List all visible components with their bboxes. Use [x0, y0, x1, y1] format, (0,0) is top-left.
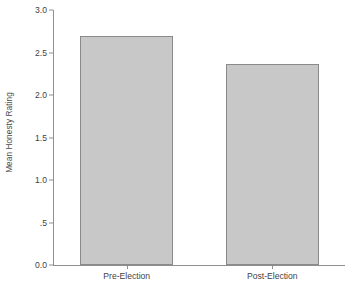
x-tick-label: Pre-Election [103, 271, 150, 281]
y-tick-label: 1.5 [18, 133, 47, 143]
y-tick-label: 0.0 [18, 260, 47, 270]
x-tick-mark [272, 266, 273, 269]
y-tick-label: 2.0 [18, 90, 47, 100]
x-tick-label: Post-Election [247, 271, 298, 281]
bar [80, 36, 173, 266]
y-axis-title-text: Mean Honesty Rating [5, 92, 14, 173]
y-tick-label: 3.0 [18, 5, 47, 15]
plot-area [54, 10, 345, 265]
y-axis-title: Mean Honesty Rating [0, 0, 18, 265]
y-axis-tick-labels: 0.0.51.01.52.02.53.0 [18, 0, 47, 294]
bar [226, 64, 319, 265]
x-axis-tick-labels: Pre-ElectionPost-Election [54, 271, 345, 287]
y-tick-label: .5 [18, 218, 47, 228]
y-tick-label: 1.0 [18, 175, 47, 185]
y-tick-label: 2.5 [18, 48, 47, 58]
bar-chart: Mean Honesty Rating 0.0.51.01.52.02.53.0… [0, 0, 354, 294]
x-tick-mark [127, 266, 128, 269]
x-axis-tick-marks [54, 266, 345, 270]
